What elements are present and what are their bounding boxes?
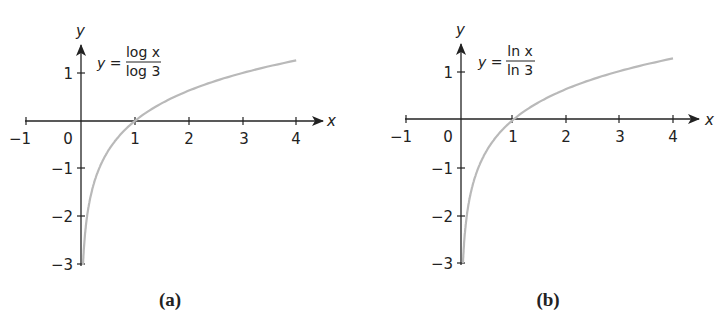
svg-text:1: 1 (508, 128, 518, 146)
svg-text:0: 0 (443, 128, 453, 146)
caption-a: (a) (159, 289, 181, 311)
svg-text:1: 1 (130, 130, 140, 148)
svg-text:−2: −2 (431, 208, 453, 226)
ln-curve (463, 58, 673, 263)
y-axis-label: y (75, 22, 86, 40)
y-axis-label: y (455, 21, 466, 39)
figure: −1 0 1 2 3 4 1 −1 −2 −3 x y y = log x lo… (0, 0, 728, 323)
svg-text:2: 2 (561, 128, 571, 146)
equation-label: y = ln x ln 3 (477, 43, 535, 78)
svg-text:log x: log x (126, 44, 160, 60)
svg-text:2: 2 (184, 130, 194, 148)
svg-text:−1: −1 (431, 160, 453, 178)
svg-text:y =: y = (96, 55, 121, 71)
x-axis-label: x (326, 112, 336, 130)
svg-text:−1: −1 (390, 128, 412, 146)
svg-text:log 3: log 3 (126, 63, 161, 79)
svg-text:y =: y = (477, 54, 502, 70)
svg-text:1: 1 (443, 64, 453, 82)
x-tick-labels: −1 0 1 2 3 4 (390, 128, 678, 146)
svg-text:3: 3 (615, 128, 625, 146)
panel-a: −1 0 1 2 3 4 1 −1 −2 −3 x y y = log x lo… (9, 22, 336, 311)
svg-text:−1: −1 (51, 160, 73, 178)
x-tick-labels: −1 0 1 2 3 4 (9, 130, 301, 148)
svg-text:−1: −1 (9, 130, 31, 148)
x-axis-label: x (704, 111, 714, 129)
log-curve (83, 60, 296, 265)
svg-text:ln x: ln x (507, 43, 533, 59)
svg-text:0: 0 (63, 130, 73, 148)
svg-text:−3: −3 (431, 255, 453, 273)
y-tick-labels: 1 −1 −2 −3 (431, 64, 453, 273)
caption-b: (b) (536, 289, 559, 311)
svg-text:−3: −3 (51, 256, 73, 274)
y-tick-labels: 1 −1 −2 −3 (51, 65, 73, 274)
panel-b: −1 0 1 2 3 4 1 −1 −2 −3 x y y = ln x ln … (390, 21, 714, 311)
equation-label: y = log x log 3 (96, 44, 161, 79)
svg-text:ln 3: ln 3 (507, 62, 533, 78)
svg-text:4: 4 (291, 130, 301, 148)
svg-text:1: 1 (63, 65, 73, 83)
svg-text:−2: −2 (51, 208, 73, 226)
svg-text:3: 3 (239, 130, 249, 148)
svg-text:4: 4 (668, 128, 678, 146)
